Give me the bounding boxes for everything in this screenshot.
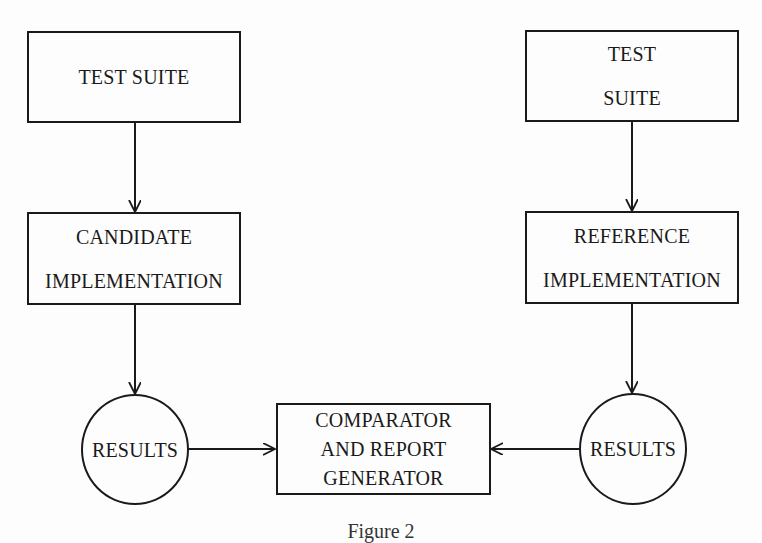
test-suite-left-box: TEST SUITE (27, 31, 241, 123)
results-right-label: RESULTS (590, 427, 676, 471)
results-right-ellipse: RESULTS (579, 393, 687, 505)
comparator-label-line2: AND REPORT (321, 435, 447, 464)
reference-implementation-box: REFERENCE IMPLEMENTATION (525, 211, 739, 304)
figure-caption: Figure 2 (0, 520, 762, 543)
comparator-label-line3: GENERATOR (323, 464, 443, 493)
test-suite-right-label-line2: SUITE (603, 76, 661, 120)
comparator-label-line1: COMPARATOR (315, 406, 452, 435)
test-suite-left-label: TEST SUITE (78, 55, 189, 99)
comparator-box: COMPARATOR AND REPORT GENERATOR (276, 403, 491, 495)
candidate-label-line1: CANDIDATE (76, 215, 192, 259)
test-suite-right-box: TEST SUITE (525, 30, 739, 122)
candidate-label-line2: IMPLEMENTATION (45, 259, 223, 303)
results-left-ellipse: RESULTS (81, 394, 189, 505)
reference-label-line1: REFERENCE (574, 214, 690, 258)
reference-label-line2: IMPLEMENTATION (543, 258, 721, 302)
results-left-label: RESULTS (92, 428, 178, 472)
candidate-implementation-box: CANDIDATE IMPLEMENTATION (27, 212, 241, 305)
test-suite-right-label-line1: TEST (608, 32, 657, 76)
